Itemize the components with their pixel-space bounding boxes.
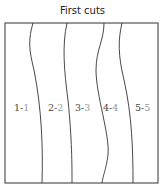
region-label-3: 3-3 [75,102,90,113]
region-label-5: 5-5 [135,102,150,113]
cut-line-2 [64,23,72,183]
cuts-diagram: 1-1 2-2 3-3 4-4 5-5 [0,0,165,194]
region-label-4: 4-4 [103,102,118,113]
region-label-1: 1-1 [14,102,29,113]
region-label-2: 2-2 [48,102,63,113]
cut-line-1 [30,23,43,183]
cut-line-4 [119,23,133,183]
